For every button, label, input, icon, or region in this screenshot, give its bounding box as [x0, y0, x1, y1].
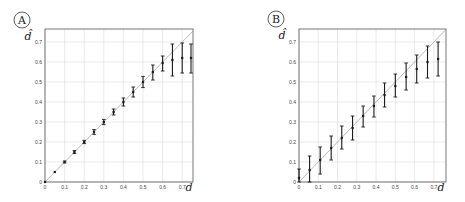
data-point: [437, 58, 439, 60]
data-point: [298, 177, 300, 179]
data-point: [152, 71, 154, 73]
x-tick-label: 0: [298, 184, 301, 190]
x-tick-label: 0.6: [159, 184, 166, 190]
y-tick-label: 0.6: [35, 59, 42, 65]
data-point: [330, 147, 332, 149]
error-bars: [297, 42, 440, 182]
y-tick-label: 0.2: [289, 139, 296, 145]
data-point: [54, 171, 56, 173]
svg-text:B: B: [272, 13, 280, 26]
data-point: [308, 169, 310, 171]
x-axis-label: d: [437, 181, 444, 194]
x-tick-label: 0.5: [140, 184, 147, 190]
data-point: [122, 101, 124, 103]
data-point: [383, 94, 385, 96]
data-point: [142, 81, 144, 83]
x-tick-label: 0.3: [100, 184, 107, 190]
y-tick-label: 0.6: [289, 59, 296, 65]
data-point: [373, 105, 375, 107]
data-point: [93, 131, 95, 133]
y-tick-label: 0: [39, 179, 42, 185]
data-point: [362, 115, 364, 117]
data-point: [351, 127, 353, 129]
y-tick-label: 0.1: [289, 159, 296, 165]
x-axis-label: d: [185, 181, 192, 194]
data-point: [73, 151, 75, 153]
data-point: [319, 159, 321, 161]
data-point: [171, 59, 173, 61]
data-point: [405, 76, 407, 78]
data-point: [181, 57, 183, 59]
data-point: [416, 68, 418, 70]
data-point: [103, 121, 105, 123]
panel-label-b: B: [268, 11, 284, 27]
data-point: [190, 57, 192, 59]
y-tick-label: 0.2: [35, 139, 42, 145]
x-tick-label: 0.7: [430, 184, 437, 190]
data-point: [394, 85, 396, 87]
data-point: [341, 137, 343, 139]
y-tick-label: 0.7: [289, 39, 296, 45]
y-tick-label: 0: [293, 179, 296, 185]
x-tick-label: 0.5: [392, 184, 399, 190]
x-tick-label: 0.4: [373, 184, 380, 190]
x-tick-label: 0.1: [315, 184, 322, 190]
y-axis-label: d̂: [24, 29, 33, 43]
x-tick-label: 0.2: [81, 184, 88, 190]
y-tick-label: 0.7: [35, 39, 42, 45]
y-tick-label: 0.4: [35, 99, 42, 105]
x-tick-label: 0.3: [353, 184, 360, 190]
figure: 00.10.20.30.40.50.60.700.10.20.30.40.50.…: [0, 0, 465, 202]
data-point: [113, 111, 115, 113]
x-tick-label: 0: [44, 184, 47, 190]
panel-a: 00.10.20.30.40.50.60.700.10.20.30.40.50.…: [14, 12, 193, 194]
x-tick-label: 0.1: [61, 184, 68, 190]
x-tick-label: 0.6: [411, 184, 418, 190]
svg-text:A: A: [17, 14, 27, 27]
y-tick-label: 0.3: [289, 119, 296, 125]
data-point: [44, 181, 46, 183]
data-point: [64, 161, 66, 163]
data-point: [426, 61, 428, 63]
y-tick-label: 0.5: [289, 79, 296, 85]
y-tick-label: 0.4: [289, 99, 296, 105]
panel-label-a: A: [14, 12, 30, 28]
x-tick-label: 0.4: [120, 184, 127, 190]
y-tick-label: 0.1: [35, 159, 42, 165]
data-point: [132, 91, 134, 93]
x-tick-label: 0.2: [334, 184, 341, 190]
y-tick-label: 0.5: [35, 79, 42, 85]
y-tick-label: 0.3: [35, 119, 42, 125]
data-point: [83, 141, 85, 143]
y-axis-label: d̂: [278, 28, 287, 42]
panel-b: 00.10.20.30.40.50.60.700.10.20.30.40.50.…: [268, 11, 446, 194]
identity-line: [45, 31, 193, 182]
data-point: [162, 62, 164, 64]
